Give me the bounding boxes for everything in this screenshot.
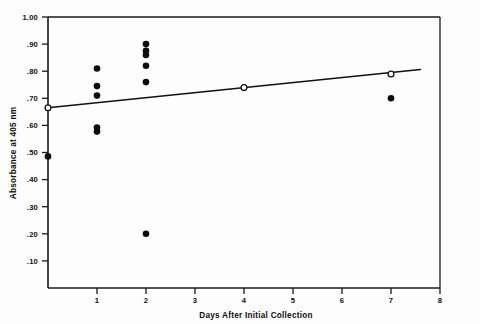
y-axis-tick-labels: 1.00 .90 .80 .70 .60 .50 .40 .30 .20 .10 bbox=[22, 13, 38, 266]
scatter-plot: 1.00 .90 .80 .70 .60 .50 .40 .30 .20 .10… bbox=[0, 0, 480, 324]
data-point bbox=[143, 79, 150, 86]
regression-line bbox=[48, 70, 420, 108]
x-tick-label-2: 2 bbox=[144, 296, 148, 305]
x-tick-label-3: 3 bbox=[193, 296, 197, 305]
data-point bbox=[94, 83, 101, 90]
data-point bbox=[94, 92, 101, 99]
x-tick-label-5: 5 bbox=[291, 296, 296, 305]
data-point bbox=[94, 65, 101, 72]
x-axis-tick-labels: 1 2 3 4 5 6 7 8 bbox=[95, 296, 442, 305]
x-tick-label-1: 1 bbox=[95, 296, 100, 305]
fitted-point bbox=[388, 71, 394, 77]
x-tick-label-8: 8 bbox=[438, 296, 442, 305]
data-point bbox=[94, 128, 101, 135]
data-point bbox=[143, 231, 150, 238]
data-point bbox=[45, 153, 52, 160]
y-tick-label-.50: .50 bbox=[27, 148, 38, 157]
x-axis-ticks bbox=[97, 288, 440, 294]
y-tick-label-.30: .30 bbox=[27, 203, 38, 212]
y-tick-label-.20: .20 bbox=[27, 230, 38, 239]
y-tick-label-.60: .60 bbox=[27, 121, 38, 130]
fitted-point bbox=[45, 105, 51, 111]
data-points-observed bbox=[45, 41, 395, 237]
plot-frame bbox=[48, 17, 440, 288]
y-tick-label-.90: .90 bbox=[27, 40, 38, 49]
fitted-point bbox=[241, 85, 247, 91]
x-tick-label-7: 7 bbox=[389, 296, 393, 305]
y-tick-label-.10: .10 bbox=[27, 257, 38, 266]
x-tick-label-4: 4 bbox=[242, 296, 247, 305]
y-axis-title: Absorbance at 405 nm bbox=[9, 107, 18, 199]
y-tick-label-1.00: 1.00 bbox=[22, 13, 38, 22]
x-tick-label-6: 6 bbox=[340, 296, 344, 305]
x-axis-title: Days After Initial Collection bbox=[199, 311, 312, 320]
data-point bbox=[143, 52, 150, 59]
y-tick-label-.70: .70 bbox=[27, 94, 38, 103]
y-tick-label-.40: .40 bbox=[27, 175, 38, 184]
data-point bbox=[143, 63, 150, 70]
data-point bbox=[388, 95, 395, 102]
y-tick-label-.80: .80 bbox=[27, 67, 38, 76]
chart-figure: 1.00 .90 .80 .70 .60 .50 .40 .30 .20 .10… bbox=[0, 0, 480, 324]
data-point bbox=[143, 41, 150, 48]
y-axis-ticks bbox=[42, 17, 48, 261]
